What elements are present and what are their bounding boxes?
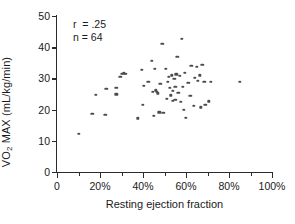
data-point (183, 72, 186, 74)
data-point (180, 38, 183, 40)
data-point (203, 81, 206, 83)
y-tick (52, 110, 57, 111)
data-point (209, 81, 212, 83)
data-point (198, 74, 201, 76)
data-point (140, 69, 143, 71)
x-tick-label: 20% (89, 181, 110, 192)
x-tick (57, 172, 58, 178)
data-point (169, 94, 172, 96)
data-point (165, 98, 168, 100)
data-point (124, 73, 127, 75)
data-point (142, 84, 145, 86)
data-point (195, 66, 198, 68)
data-point (161, 43, 164, 45)
x-tick-minor (208, 172, 209, 176)
scatter-chart-figure: 01020304050 020%40%60%80%100% r = .25 n … (0, 0, 295, 224)
x-tick-minor (122, 172, 123, 176)
x-tick-label: 80% (218, 181, 239, 192)
stats-annotation: r = .25 n = 64 (73, 18, 106, 44)
data-point (147, 80, 150, 82)
y-tick (52, 141, 57, 142)
data-point (105, 88, 108, 90)
data-point (177, 92, 180, 94)
data-point (181, 86, 184, 88)
x-tick-label: 100% (259, 181, 286, 192)
data-point (162, 112, 165, 114)
data-point (104, 113, 107, 115)
x-axis-title: Resting ejection fraction (57, 198, 272, 210)
data-point (182, 109, 185, 111)
data-point (119, 75, 122, 77)
annotation-sample-size: n = 64 (73, 31, 106, 44)
data-point (171, 90, 174, 92)
data-point (238, 80, 241, 82)
data-point (207, 100, 210, 102)
y-tick-label: 30 (38, 73, 50, 84)
data-point (179, 101, 182, 103)
data-point (174, 98, 177, 100)
v-dot-accent: V (0, 160, 12, 167)
x-tick (186, 172, 187, 178)
data-point (196, 79, 199, 81)
data-point (204, 103, 207, 105)
annotation-correlation: r = .25 (73, 18, 106, 31)
x-tick (100, 172, 101, 178)
data-point (151, 91, 154, 93)
y-tick (52, 78, 57, 79)
data-point (176, 56, 179, 58)
data-point (172, 78, 175, 80)
data-point (152, 115, 155, 117)
x-tick-label: 0 (54, 181, 60, 192)
data-point (190, 65, 193, 67)
data-point (200, 64, 203, 66)
x-tick-minor (251, 172, 252, 176)
data-point (192, 105, 195, 107)
data-point (158, 83, 161, 85)
x-tick-minor (79, 172, 80, 176)
data-point (166, 81, 169, 83)
y-axis-title: VO2 MAX (mL/kg/min) (0, 0, 15, 224)
data-point (150, 60, 153, 62)
data-point (199, 106, 202, 108)
data-point (178, 75, 181, 77)
x-tick-label: 40% (132, 181, 153, 192)
data-point (184, 117, 187, 119)
x-tick (229, 172, 230, 178)
data-point (186, 82, 189, 84)
y-tick-label: 20 (38, 104, 50, 115)
y-tick-label: 50 (38, 11, 50, 22)
data-point (91, 113, 94, 115)
data-point (153, 68, 156, 70)
data-point (168, 87, 171, 89)
data-point (77, 132, 80, 134)
x-tick (143, 172, 144, 178)
y-tick-label: 0 (44, 167, 50, 178)
data-point (170, 74, 173, 76)
y-axis-title-text: VO2 MAX (mL/kg/min) (0, 57, 14, 167)
data-point (189, 94, 192, 96)
x-tick-label: 60% (175, 181, 196, 192)
data-point (114, 93, 117, 95)
data-point (164, 68, 167, 70)
data-point (136, 117, 139, 119)
y-tick (52, 47, 57, 48)
x-tick-minor (165, 172, 166, 176)
x-tick (272, 172, 273, 178)
y-tick (52, 16, 57, 17)
data-point (94, 93, 97, 95)
data-point (156, 92, 159, 94)
data-point (167, 76, 170, 78)
data-point (157, 111, 160, 113)
y-tick-label: 40 (38, 42, 50, 53)
y-tick-label: 10 (38, 136, 50, 147)
data-point (141, 103, 144, 105)
data-point (174, 85, 177, 87)
data-point (114, 87, 117, 89)
